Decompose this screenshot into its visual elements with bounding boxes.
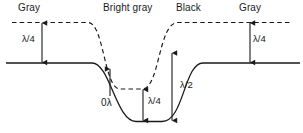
region-label-gray-right: Gray bbox=[239, 2, 261, 13]
annotation-label-zero-lambda: 0λ bbox=[101, 97, 112, 108]
phase-profile-diagram: Gray Bright gray Black Gray λ/4 λ/4 0λ λ… bbox=[0, 0, 303, 133]
region-label-gray-left: Gray bbox=[18, 2, 40, 13]
region-label-black: Black bbox=[176, 2, 201, 13]
region-label-bright-gray: Bright gray bbox=[103, 2, 152, 13]
solid-curve bbox=[6, 63, 300, 122]
annotation-label-lambda-quarter-right: λ/4 bbox=[253, 33, 266, 44]
annotation-label-lambda-quarter-center: λ/4 bbox=[148, 95, 161, 106]
diagram-canvas bbox=[0, 0, 303, 133]
annotation-label-lambda-half: λ/2 bbox=[180, 79, 193, 90]
dashed-curve bbox=[12, 23, 291, 90]
annotation-label-lambda-quarter-left: λ/4 bbox=[22, 33, 35, 44]
